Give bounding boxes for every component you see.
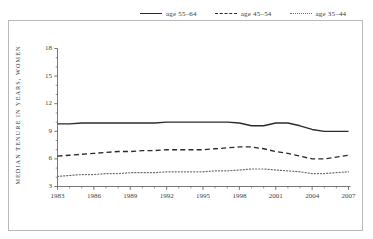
x-axis-tick-label: 2001 [260, 192, 292, 200]
x-axis-tick-label: 1998 [223, 192, 255, 200]
x-axis-tick-label: 1995 [187, 192, 219, 200]
x-axis-tick-label: 2007 [333, 192, 365, 200]
x-axis-tick-label: 1986 [78, 192, 110, 200]
series-line-1[interactable] [58, 147, 349, 159]
y-axis-tick-label: 9 [26, 127, 52, 135]
x-axis-tick-label: 1992 [151, 192, 183, 200]
y-axis-tick-label: 3 [26, 182, 52, 190]
chart-plot-area [0, 0, 373, 239]
y-axis-tick-label: 15 [26, 72, 52, 80]
y-axis-tick-label: 18 [26, 44, 52, 52]
x-axis-tick-label: 2004 [296, 192, 328, 200]
series-line-0[interactable] [58, 122, 349, 131]
y-axis-tick-label: 6 [26, 154, 52, 162]
chart-figure: age 55–64age 45–54age 35–44 MEDIAN TENUR… [0, 0, 373, 239]
x-axis-tick-label: 1989 [114, 192, 146, 200]
series-line-2[interactable] [58, 169, 349, 176]
y-axis-tick-label: 12 [26, 99, 52, 107]
x-axis-tick-label: 1983 [42, 192, 74, 200]
